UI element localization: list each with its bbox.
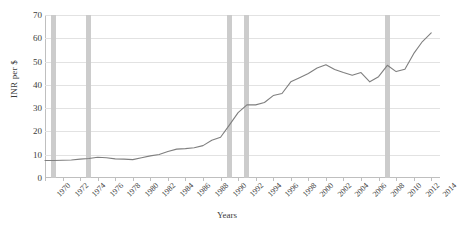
x-tick-label-2000: 2000 <box>318 181 336 199</box>
x-tickmark-2000 <box>308 178 309 181</box>
x-tick-label-1998: 1998 <box>300 181 318 199</box>
x-tickmark-1996 <box>273 178 274 181</box>
y-axis-title: INR per $ <box>9 34 19 124</box>
x-tickmark-2002 <box>326 178 327 181</box>
x-tickmark-1976 <box>98 178 99 181</box>
x-tick-label-1990: 1990 <box>230 181 248 199</box>
x-tickmark-2008 <box>379 178 380 181</box>
x-tick-label-1984: 1984 <box>178 181 196 199</box>
plot-area <box>45 15 440 178</box>
x-tickmark-1978 <box>115 178 116 181</box>
x-tickmark-1974 <box>80 178 81 181</box>
y-tick-label-10: 10 <box>33 150 42 160</box>
y-tick-label-0: 0 <box>38 173 43 183</box>
x-tickmark-1986 <box>185 178 186 181</box>
x-tick-label-1988: 1988 <box>213 181 231 199</box>
x-tickmark-1970 <box>45 178 46 181</box>
x-tick-label-1974: 1974 <box>90 181 108 199</box>
x-tick-label-1976: 1976 <box>107 181 125 199</box>
y-tick-label-70: 70 <box>33 10 42 20</box>
x-tick-label-2012: 2012 <box>423 181 441 199</box>
x-tick-label-1982: 1982 <box>160 181 178 199</box>
x-tickmark-1982 <box>150 178 151 181</box>
x-tick-label-1978: 1978 <box>125 181 143 199</box>
series-line-inr-per-usd <box>45 15 440 178</box>
x-tick-label-2010: 2010 <box>406 181 424 199</box>
x-tickmark-1972 <box>63 178 64 181</box>
x-tick-label-1994: 1994 <box>265 181 283 199</box>
x-tick-label-2008: 2008 <box>388 181 406 199</box>
x-tickmark-2014 <box>431 178 432 181</box>
y-tick-label-50: 50 <box>33 57 42 67</box>
x-tickmark-1998 <box>291 178 292 181</box>
x-tickmark-1990 <box>221 178 222 181</box>
x-tickmark-1992 <box>238 178 239 181</box>
x-tick-label-2002: 2002 <box>336 181 354 199</box>
x-tickmark-1980 <box>133 178 134 181</box>
x-tick-label-2004: 2004 <box>353 181 371 199</box>
x-tickmark-1984 <box>168 178 169 181</box>
x-tick-label-1986: 1986 <box>195 181 213 199</box>
y-tick-label-30: 30 <box>33 103 42 113</box>
x-tick-label-1992: 1992 <box>248 181 266 199</box>
x-tick-label-2014: 2014 <box>441 181 459 199</box>
x-tick-label-1980: 1980 <box>142 181 160 199</box>
y-tick-label-60: 60 <box>33 33 42 43</box>
x-axis-title: Years <box>0 210 454 220</box>
x-tickmark-1994 <box>256 178 257 181</box>
x-tickmark-2010 <box>396 178 397 181</box>
x-tick-label-1972: 1972 <box>72 181 90 199</box>
y-tick-label-40: 40 <box>33 80 42 90</box>
x-tick-label-1996: 1996 <box>283 181 301 199</box>
x-tickmark-2004 <box>343 178 344 181</box>
x-tickmark-2012 <box>414 178 415 181</box>
x-tick-label-2006: 2006 <box>371 181 389 199</box>
y-tick-label-20: 20 <box>33 126 42 136</box>
x-tickmark-2006 <box>361 178 362 181</box>
x-tick-label-1970: 1970 <box>55 181 73 199</box>
x-tickmark-1988 <box>203 178 204 181</box>
y-axis-tick-labels: 010203040506070 <box>22 0 42 230</box>
